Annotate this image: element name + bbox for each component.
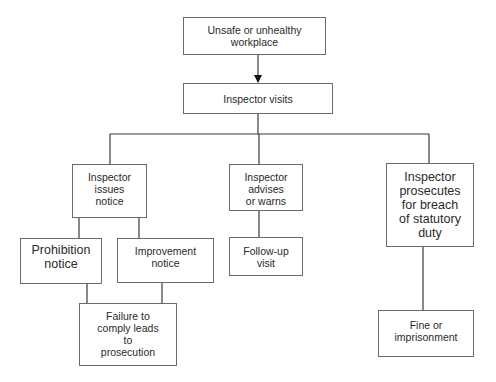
node-unsafe-workplace: Unsafe or unhealthy workplace bbox=[183, 17, 326, 55]
node-prohibition-notice: Prohibition notice bbox=[20, 238, 102, 284]
node-label: Failure to comply leads to prosecution bbox=[97, 310, 158, 365]
node-label: Unsafe or unhealthy workplace bbox=[208, 24, 302, 48]
node-follow-up-visit: Follow-up visit bbox=[229, 237, 303, 276]
node-issues-notice: Inspector issues notice bbox=[72, 164, 147, 218]
node-label: Improvement notice bbox=[135, 245, 196, 282]
node-label: Prohibition notice bbox=[31, 243, 90, 283]
node-label: Inspector visits bbox=[223, 93, 292, 105]
node-fine-imprisonment: Fine or imprisonment bbox=[378, 310, 474, 357]
node-label: Follow-up visit bbox=[243, 245, 289, 275]
node-failure-to-comply: Failure to comply leads to prosecution bbox=[79, 303, 177, 366]
node-label: Inspector issues notice bbox=[88, 171, 131, 217]
node-label: Inspector advises or warns bbox=[244, 171, 287, 210]
node-prosecutes: Inspector prosecutes for breach of statu… bbox=[386, 163, 474, 247]
node-label: Fine or imprisonment bbox=[394, 319, 457, 356]
node-improvement-notice: Improvement notice bbox=[117, 238, 214, 283]
node-inspector-visits: Inspector visits bbox=[183, 83, 333, 114]
node-label: Inspector prosecutes for breach of statu… bbox=[399, 170, 461, 240]
node-advises-warns: Inspector advises or warns bbox=[229, 164, 303, 211]
